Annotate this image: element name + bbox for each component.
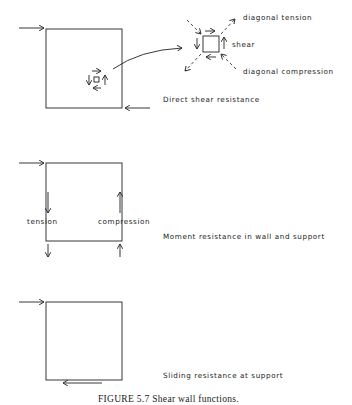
compression-label: compression: [98, 217, 150, 226]
wall-outline: [46, 29, 122, 108]
moment-resistance-label: Moment resistance in wall and support: [163, 232, 325, 241]
panel-moment: tension compression Moment resistance in…: [19, 163, 325, 257]
shear-label: shear: [232, 40, 255, 49]
tension-label: tension: [27, 217, 58, 226]
shear-wall-figure: diagonal tension shear diagonal compress…: [0, 0, 352, 405]
diagonal-tension-label: diagonal tension: [243, 13, 312, 22]
shear-detail-icon: [185, 19, 236, 71]
curved-pointer-arrow-icon: [113, 48, 182, 69]
figure-caption: FIGURE 5.7 Shear wall functions.: [98, 394, 239, 404]
wall-outline: [46, 302, 122, 380]
wall-outline: [46, 163, 122, 241]
diagonal-compression-label: diagonal compression: [243, 67, 334, 76]
direct-shear-label: Direct shear resistance: [163, 95, 260, 104]
panel-direct-shear: diagonal tension shear diagonal compress…: [19, 13, 334, 108]
panel-sliding: Sliding resistance at support: [19, 302, 283, 383]
shear-element-icon: [89, 71, 105, 88]
sliding-resistance-label: Sliding resistance at support: [163, 371, 283, 380]
